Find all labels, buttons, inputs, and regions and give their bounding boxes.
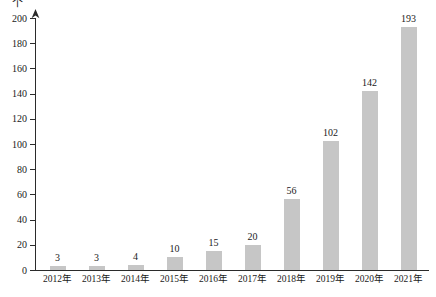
x-axis-line <box>35 270 429 271</box>
y-axis-tick-label: 40 <box>17 215 27 225</box>
bar-group: 20 <box>233 18 272 270</box>
y-axis-tick-label: 0 <box>22 266 27 276</box>
y-axis-unit-label: 个 <box>12 0 23 10</box>
bar <box>245 245 261 270</box>
bar-group: 15 <box>194 18 233 270</box>
bar-group: 102 <box>311 18 350 270</box>
bar-group: 3 <box>38 18 77 270</box>
bar-value-label: 10 <box>170 244 180 254</box>
bar-value-label: 102 <box>323 128 338 138</box>
y-axis-tick-label: 140 <box>12 89 27 99</box>
y-axis-tick-label: 60 <box>17 190 27 200</box>
y-axis-tick: 100 <box>30 144 35 145</box>
bar-group: 4 <box>116 18 155 270</box>
y-axis-tick: 200 <box>30 18 35 19</box>
bar-chart: 个 020406080100120140160180200 3341015205… <box>0 0 436 297</box>
bar <box>206 251 222 270</box>
y-axis-tick: 60 <box>30 194 35 195</box>
bar-value-label: 3 <box>94 253 99 263</box>
y-axis-tick: 80 <box>30 169 35 170</box>
bar <box>50 266 66 270</box>
bar-value-label: 4 <box>133 252 138 262</box>
y-axis-tick: 40 <box>30 220 35 221</box>
bar-group: 56 <box>272 18 311 270</box>
bar-group: 142 <box>350 18 389 270</box>
y-axis-tick-label: 120 <box>12 114 27 124</box>
bar-group: 3 <box>77 18 116 270</box>
y-axis-tick: 120 <box>30 119 35 120</box>
x-axis-label: 2017年 <box>233 274 272 285</box>
x-axis-label: 2012年 <box>38 274 77 285</box>
bar-value-label: 56 <box>287 186 297 196</box>
y-axis-tick: 20 <box>30 245 35 246</box>
bar <box>89 266 105 270</box>
y-axis-tick-label: 200 <box>12 14 27 24</box>
bar <box>401 27 417 270</box>
bar-value-label: 193 <box>401 14 416 24</box>
bar <box>128 265 144 270</box>
bar-value-label: 20 <box>248 232 258 242</box>
x-axis-label: 2015年 <box>155 274 194 285</box>
x-axis-label: 2019年 <box>311 274 350 285</box>
y-axis-tick-label: 160 <box>12 64 27 74</box>
x-axis-label: 2020年 <box>350 274 389 285</box>
plot-area: 33410152056102142193 <box>36 18 429 270</box>
bar <box>167 257 183 270</box>
y-axis-tick-label: 100 <box>12 140 27 150</box>
bar-value-label: 142 <box>362 78 377 88</box>
y-axis-tick: 140 <box>30 94 35 95</box>
bar-value-label: 15 <box>209 238 219 248</box>
bar <box>284 199 300 270</box>
y-axis-tick: 160 <box>30 68 35 69</box>
x-axis-label: 2018年 <box>272 274 311 285</box>
x-axis-label: 2014年 <box>116 274 155 285</box>
bar-value-label: 3 <box>55 253 60 263</box>
y-axis-tick: 180 <box>30 43 35 44</box>
y-axis-tick: 0 <box>30 270 35 271</box>
x-axis-label: 2021年 <box>389 274 428 285</box>
y-axis-tick-label: 80 <box>17 165 27 175</box>
bar-group: 10 <box>155 18 194 270</box>
x-axis-label: 2013年 <box>77 274 116 285</box>
y-axis-tick-label: 180 <box>12 39 27 49</box>
bar <box>362 91 378 270</box>
bar <box>323 141 339 270</box>
y-axis-tick-label: 20 <box>17 240 27 250</box>
bar-group: 193 <box>389 18 428 270</box>
x-axis-label: 2016年 <box>194 274 233 285</box>
